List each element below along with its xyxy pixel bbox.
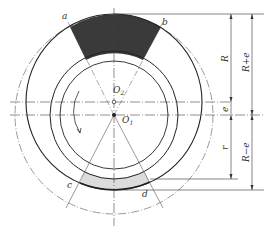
label-e: e <box>220 107 230 112</box>
label-R-plus-e: R+e <box>241 52 251 73</box>
dim-arrows <box>230 14 254 190</box>
radial-line-d <box>114 115 163 208</box>
label-a: a <box>62 11 67 21</box>
radial-line-c <box>66 115 114 208</box>
label-O1: O1 <box>122 115 133 126</box>
rotation-arrow-icon <box>74 91 80 133</box>
label-b: b <box>162 17 168 27</box>
diagram-canvas: a b c d O2 O1 R R+e e r R−e <box>0 0 267 232</box>
center-O2 <box>112 100 116 104</box>
label-O2: O2 <box>113 85 124 96</box>
label-r: r <box>220 145 230 150</box>
center-O1 <box>112 113 116 117</box>
label-c: c <box>67 180 72 190</box>
label-R-minus-e: R−e <box>241 142 251 163</box>
label-R: R <box>220 55 230 63</box>
label-d: d <box>142 189 148 199</box>
